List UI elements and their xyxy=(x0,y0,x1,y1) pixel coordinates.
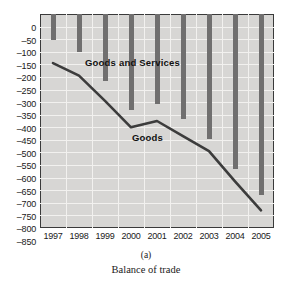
x-axis-tick-label-1997: 1997 xyxy=(43,231,62,241)
y-axis-tick-label: –550 xyxy=(17,161,36,171)
x-axis-tick-label-2000: 2000 xyxy=(121,231,140,241)
y-axis-tick-label: –450 xyxy=(17,136,36,146)
y-axis-tick-label: –650 xyxy=(17,187,36,197)
caption-marker: (a) xyxy=(0,250,292,260)
y-axis-tick-label: 0 xyxy=(31,23,36,33)
x-axis-tick-label-2001: 2001 xyxy=(147,231,166,241)
y-axis-tick-label: –400 xyxy=(17,124,36,134)
y-axis-tick-label: –50 xyxy=(22,36,36,46)
y-axis-tick-label: –750 xyxy=(17,212,36,222)
y-axis-tick-label: –500 xyxy=(17,149,36,159)
x-axis-tick-label-2003: 2003 xyxy=(199,231,218,241)
y-axis-tick-label: –600 xyxy=(17,174,36,184)
y-axis-tick-label: –200 xyxy=(17,73,36,83)
x-axis-tick-label-2002: 2002 xyxy=(173,231,192,241)
y-axis-tick-label: –300 xyxy=(17,99,36,109)
y-axis-tick-label: –700 xyxy=(17,199,36,209)
y-axis-tick-label: –150 xyxy=(17,61,36,71)
y-axis-tick-label: –250 xyxy=(17,86,36,96)
x-axis-labels: 199719981999200020012002200320042005 xyxy=(40,231,274,247)
y-axis-tick-label: –100 xyxy=(17,48,36,58)
caption-title: Balance of trade xyxy=(0,264,292,275)
x-axis-tick-label-1999: 1999 xyxy=(95,231,114,241)
x-axis-tick-label-1998: 1998 xyxy=(69,231,88,241)
figure-balance-of-trade: 0–50–100–150–200–250–300–350–400–450–500… xyxy=(0,0,292,287)
plot-area: Goods and Services Goods xyxy=(40,14,274,228)
y-axis-labels: 0–50–100–150–200–250–300–350–400–450–500… xyxy=(0,14,36,228)
y-axis-tick-label: –350 xyxy=(17,111,36,121)
x-axis-tick-label-2005: 2005 xyxy=(251,231,270,241)
x-axis-tick-label-2004: 2004 xyxy=(225,231,244,241)
annotation-goods: Goods xyxy=(132,132,163,143)
y-axis-tick-label: –800 xyxy=(17,224,36,234)
annotation-goods-and-services: Goods and Services xyxy=(85,57,180,68)
y-axis-tick-label: –850 xyxy=(17,237,36,247)
annotations: Goods and Services Goods xyxy=(40,14,274,228)
